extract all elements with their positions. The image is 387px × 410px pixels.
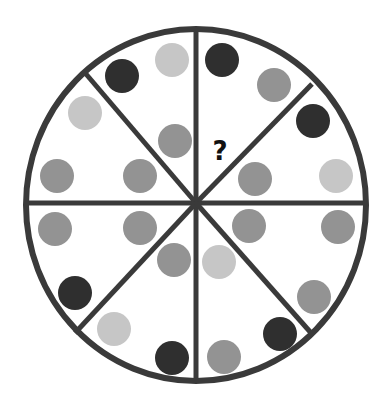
dark-dot <box>58 276 92 310</box>
sector-dot-puzzle: ? <box>0 0 387 410</box>
dark-dot <box>105 59 139 93</box>
medium-dot <box>257 68 291 102</box>
medium-dot <box>321 210 355 244</box>
dark-dot <box>263 317 297 351</box>
dark-dot <box>155 341 189 375</box>
question-mark: ? <box>212 136 227 166</box>
light-dot <box>68 96 102 130</box>
light-dot <box>97 312 131 346</box>
medium-dot <box>207 340 241 374</box>
medium-dot <box>238 162 272 196</box>
medium-dot <box>157 243 191 277</box>
medium-dot <box>38 212 72 246</box>
medium-dot <box>232 209 266 243</box>
medium-dot <box>297 280 331 314</box>
medium-dot <box>123 211 157 245</box>
light-dot <box>202 245 236 279</box>
light-dot <box>155 43 189 77</box>
medium-dot <box>158 124 192 158</box>
dark-dot <box>296 104 330 138</box>
light-dot <box>319 159 353 193</box>
dark-dot <box>205 43 239 77</box>
medium-dot <box>40 159 74 193</box>
medium-dot <box>123 159 157 193</box>
